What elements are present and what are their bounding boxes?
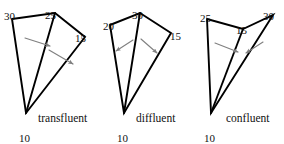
caption-diffluent: diffluent [136,112,176,124]
label-25-confluent: 25 [200,12,212,24]
label-15-diffluent: 15 [170,30,182,42]
diagram-canvas: 30251510transfluent20301510diffluent2515… [0,0,284,144]
label-10-diffluent: 10 [117,132,129,144]
label-15-confluent: 15 [236,24,248,36]
diagram-diffluent: 20301510diffluent [103,9,182,144]
label-30-diffluent: 30 [132,9,144,21]
label-25-transfluent: 25 [45,9,57,21]
caption-confluent: confluent [226,112,270,124]
diagram-transfluent: 30251510transfluent [4,9,88,144]
diagram-confluent: 25153010confluent [200,10,275,144]
label-15-transfluent: 15 [75,32,87,44]
label-30-transfluent: 30 [4,10,16,22]
diagrams-group: 30251510transfluent20301510diffluent2515… [4,9,275,144]
flow-type-diagram-figure: 30251510transfluent20301510diffluent2515… [0,0,284,144]
label-10-transfluent: 10 [19,132,31,144]
label-20-diffluent: 20 [103,20,115,32]
caption-transfluent: transfluent [38,112,88,124]
label-10-confluent: 10 [204,132,216,144]
label-30-confluent: 30 [263,10,275,22]
